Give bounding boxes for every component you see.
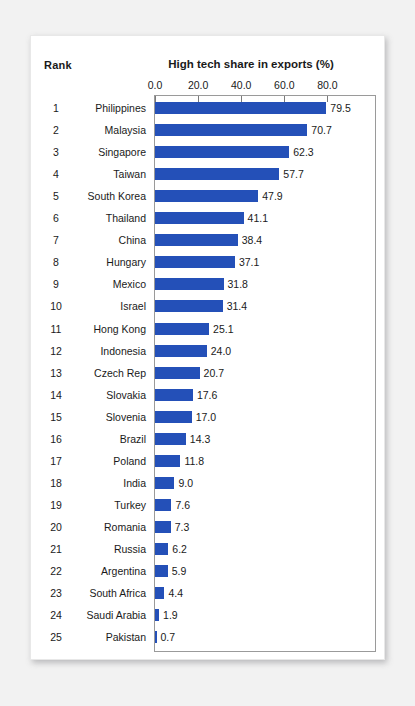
cropped-caption-fragment [14,694,194,706]
bar-value-label: 57.7 [283,163,303,185]
rank-value: 22 [39,560,73,582]
bar-value-label: 17.0 [196,406,216,428]
bar [155,565,168,577]
bar [155,543,168,555]
rank-value: 19 [39,494,73,516]
country-label: Malaysia [73,119,146,141]
rank-value: 2 [39,119,73,141]
country-label: Czech Rep [73,362,146,384]
bar-row: 14Slovakia17.6 [31,384,386,406]
rank-value: 8 [39,251,73,273]
country-label: China [73,229,146,251]
rank-value: 5 [39,185,73,207]
bar-row: 22Argentina5.9 [31,560,386,582]
country-label: Brazil [73,428,146,450]
bar-value-label: 47.9 [262,185,282,207]
bar-value-label: 5.9 [172,560,187,582]
bar-value-label: 6.2 [172,538,187,560]
country-label: Pakistan [73,626,146,648]
bar [155,345,207,357]
bar-row: 18India9.0 [31,472,386,494]
bar-row: 4Taiwan57.7 [31,163,386,185]
bar-row: 17Poland11.8 [31,450,386,472]
country-label: Indonesia [73,340,146,362]
bar-value-label: 4.4 [168,582,183,604]
country-label: Israel [73,295,146,317]
bar [155,631,157,643]
rank-value: 17 [39,450,73,472]
bar-row: 8Hungary37.1 [31,251,386,273]
bar-value-label: 7.3 [175,516,190,538]
country-label: India [73,472,146,494]
bar [155,455,180,467]
rank-value: 3 [39,141,73,163]
bar-row: 5South Korea47.9 [31,185,386,207]
country-label: Slovenia [73,406,146,428]
rank-value: 20 [39,516,73,538]
bar-row: 2Malaysia70.7 [31,119,386,141]
bar-value-label: 25.1 [213,318,233,340]
rank-value: 14 [39,384,73,406]
bar-value-label: 14.3 [190,428,210,450]
bar [155,146,289,158]
bar [155,124,307,136]
chart-card: Rank High tech share in exports (%) 0.02… [30,35,385,660]
bar [155,433,186,445]
bar [155,256,235,268]
bar-row: 19Turkey7.6 [31,494,386,516]
rank-value: 16 [39,428,73,450]
rank-value: 4 [39,163,73,185]
country-label: Slovakia [73,384,146,406]
bar-value-label: 41.1 [248,207,268,229]
x-axis-tick-labels: 0.020.040.060.080.0 [31,79,384,93]
country-label: Mexico [73,273,146,295]
bar [155,587,164,599]
bar-row: 6Thailand41.1 [31,207,386,229]
bar-value-label: 9.0 [178,472,193,494]
bar-value-label: 70.7 [311,119,331,141]
bar-row: 9Mexico31.8 [31,273,386,295]
bar-value-label: 38.4 [242,229,262,251]
bar [155,300,223,312]
rank-value: 18 [39,472,73,494]
bar-row: 13Czech Rep20.7 [31,362,386,384]
bar-row: 12Indonesia24.0 [31,340,386,362]
bar-value-label: 17.6 [197,384,217,406]
bar [155,234,238,246]
bar [155,190,258,202]
bar [155,609,159,621]
bar-value-label: 24.0 [211,340,231,362]
country-label: Argentina [73,560,146,582]
bar-value-label: 37.1 [239,251,259,273]
bar [155,411,192,423]
rank-value: 24 [39,604,73,626]
rank-value: 12 [39,340,73,362]
x-tick-label-0: 0.0 [148,79,163,91]
country-label: Hong Kong [73,318,146,340]
rank-value: 23 [39,582,73,604]
bar-row: 25Pakistan0.7 [31,626,386,648]
bar [155,212,244,224]
country-label: Hungary [73,251,146,273]
bar-row: 3Singapore62.3 [31,141,386,163]
bar [155,323,209,335]
rank-value: 7 [39,229,73,251]
rank-value: 25 [39,626,73,648]
bar [155,389,193,401]
bar [155,168,279,180]
bar-value-label: 79.5 [330,97,350,119]
country-label: Taiwan [73,163,146,185]
country-label: Turkey [73,494,146,516]
bar [155,477,174,489]
country-label: South Africa [73,582,146,604]
bar-row: 16Brazil14.3 [31,428,386,450]
rank-value: 10 [39,295,73,317]
x-tick-label-20: 20.0 [188,79,208,91]
rank-value: 1 [39,97,73,119]
x-tick-label-60: 60.0 [274,79,294,91]
country-label: South Korea [73,185,146,207]
bar-value-label: 7.6 [175,494,190,516]
chart-title: High tech share in exports (%) [126,58,376,70]
bar [155,521,171,533]
bar-row: 15Slovenia17.0 [31,406,386,428]
